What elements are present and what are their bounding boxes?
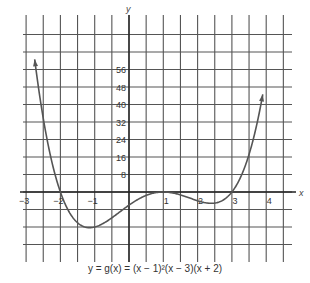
function-curve xyxy=(35,59,263,227)
svg-text:−3: −3 xyxy=(19,196,29,206)
svg-text:24: 24 xyxy=(116,135,126,145)
svg-text:−1: −1 xyxy=(88,196,98,206)
svg-text:4: 4 xyxy=(267,196,272,206)
svg-text:16: 16 xyxy=(116,153,126,163)
x-axis-label: x xyxy=(298,188,304,198)
svg-text:48: 48 xyxy=(116,83,126,93)
svg-text:8: 8 xyxy=(121,170,126,180)
tick-labels: −3−2−112348162432404856 xyxy=(19,65,272,206)
grid-lines xyxy=(23,15,292,262)
svg-text:3: 3 xyxy=(232,196,237,206)
svg-text:1: 1 xyxy=(164,196,169,206)
svg-text:32: 32 xyxy=(116,118,126,128)
svg-text:56: 56 xyxy=(116,65,126,75)
curve-arrowheads xyxy=(33,59,264,101)
function-caption: y = g(x) = (x − 1)²(x − 3)(x + 2) xyxy=(0,263,310,274)
y-axis-label: y xyxy=(125,4,131,14)
function-plot: −3−2−112348162432404856 x y xyxy=(0,0,310,283)
svg-text:40: 40 xyxy=(116,100,126,110)
